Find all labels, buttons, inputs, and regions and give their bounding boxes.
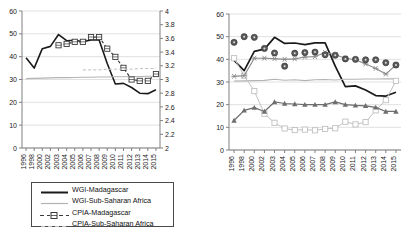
svg-text:2005: 2005	[289, 156, 296, 172]
line-solid-gray-icon	[39, 195, 70, 206]
legend-item-wgi-ssa: WGI-Sub-Saharan Africa	[32, 195, 173, 206]
svg-text:20: 20	[216, 101, 224, 108]
svg-text:1998: 1998	[28, 154, 35, 170]
svg-text:2007: 2007	[309, 156, 316, 172]
svg-text:2002: 2002	[44, 154, 51, 170]
legend-label: WGI-Madagascar	[70, 184, 128, 195]
svg-text:2013: 2013	[370, 156, 377, 172]
svg-text:10: 10	[9, 122, 17, 129]
svg-text:2010: 2010	[339, 156, 346, 172]
right-chart-plot: 0102030405060199619982000200220032004200…	[205, 0, 411, 186]
svg-text:3.6: 3.6	[165, 35, 175, 42]
svg-text:2004: 2004	[61, 154, 68, 170]
left-chart-plot: 010203040506022.22.42.62.833.23.43.63.84…	[0, 0, 205, 180]
svg-text:0: 0	[13, 145, 17, 152]
svg-text:3.4: 3.4	[165, 49, 175, 56]
legend-label: CPIA-Sub-Saharan Africa	[70, 218, 154, 229]
svg-text:2.6: 2.6	[165, 104, 175, 111]
svg-text:2.4: 2.4	[165, 117, 175, 124]
svg-text:2012: 2012	[126, 154, 133, 170]
svg-text:10: 10	[216, 124, 224, 131]
svg-text:4: 4	[165, 8, 169, 15]
svg-text:2015: 2015	[150, 154, 157, 170]
svg-text:3: 3	[165, 76, 169, 83]
line-dashed-square-icon	[39, 207, 70, 218]
left-chart-panel: 010203040506022.22.42.62.833.23.43.63.84…	[0, 0, 205, 229]
svg-text:2014: 2014	[380, 156, 387, 172]
svg-text:2000: 2000	[248, 156, 255, 172]
svg-text:0: 0	[220, 147, 224, 154]
svg-text:50: 50	[9, 30, 17, 37]
legend-label: CPIA-Madagascar	[70, 207, 131, 218]
svg-text:2005: 2005	[69, 154, 76, 170]
legend-item-wgi-madagascar: WGI-Madagascar	[32, 184, 173, 195]
svg-text:2009: 2009	[101, 154, 108, 170]
svg-text:2014: 2014	[142, 154, 149, 170]
right-chart-panel: 0102030405060199619982000200220032004200…	[205, 0, 411, 229]
svg-text:3.2: 3.2	[165, 62, 175, 69]
svg-text:2002: 2002	[258, 156, 265, 172]
svg-text:2009: 2009	[329, 156, 336, 172]
svg-text:60: 60	[216, 11, 224, 18]
line-solid-black-icon	[39, 184, 70, 195]
svg-text:2011: 2011	[117, 154, 124, 169]
svg-text:30: 30	[9, 76, 17, 83]
svg-text:40: 40	[216, 56, 224, 63]
svg-text:2008: 2008	[93, 154, 100, 170]
svg-text:2006: 2006	[77, 154, 84, 170]
svg-text:30: 30	[216, 79, 224, 86]
svg-text:20: 20	[9, 99, 17, 106]
svg-text:2011: 2011	[349, 156, 356, 171]
svg-text:2: 2	[165, 145, 169, 152]
svg-text:1998: 1998	[238, 156, 245, 172]
svg-text:2004: 2004	[279, 156, 286, 172]
line-dashed-gray-icon	[39, 218, 70, 229]
left-chart-legend: WGI-Madagascar WGI-Sub-Saharan Africa	[31, 182, 174, 227]
svg-text:50: 50	[216, 33, 224, 40]
svg-text:2013: 2013	[134, 154, 141, 170]
svg-text:2003: 2003	[53, 154, 60, 170]
svg-text:2007: 2007	[85, 154, 92, 170]
figure-root: 010203040506022.22.42.62.833.23.43.63.84…	[0, 0, 411, 229]
svg-text:2015: 2015	[390, 156, 397, 172]
legend-item-cpia-madagascar: CPIA-Madagascar	[32, 207, 173, 218]
svg-text:2.2: 2.2	[165, 131, 175, 138]
svg-text:2.8: 2.8	[165, 90, 175, 97]
svg-text:1996: 1996	[228, 156, 235, 172]
svg-text:60: 60	[9, 8, 17, 15]
svg-text:2000: 2000	[36, 154, 43, 170]
svg-text:40: 40	[9, 53, 17, 60]
svg-text:2006: 2006	[299, 156, 306, 172]
legend-label: WGI-Sub-Saharan Africa	[70, 195, 151, 206]
svg-text:2010: 2010	[109, 154, 116, 170]
svg-text:1996: 1996	[20, 154, 27, 170]
svg-text:2008: 2008	[319, 156, 326, 172]
svg-text:3.8: 3.8	[165, 21, 175, 28]
svg-text:2012: 2012	[360, 156, 367, 172]
legend-item-cpia-ssa: CPIA-Sub-Saharan Africa	[32, 218, 173, 229]
svg-text:2003: 2003	[269, 156, 276, 172]
